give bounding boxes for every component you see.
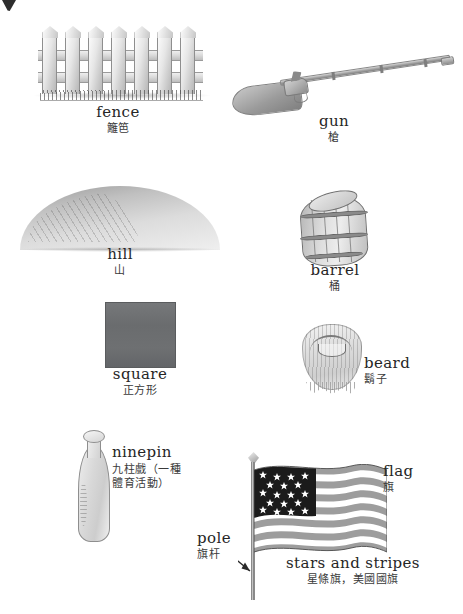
beard-illustration [298, 318, 366, 394]
gun-trigger-guard [293, 93, 308, 104]
label-flag-zh: 旗 [383, 482, 414, 495]
label-flag: flag 旗 [383, 463, 414, 495]
square-body [105, 302, 176, 368]
label-barrel: barrel 桶 [311, 262, 360, 294]
page-corner-artifact [2, 0, 16, 11]
gun-muzzle [440, 56, 454, 66]
label-barrel-en: barrel [311, 262, 360, 280]
label-stars-and-stripes-zh: 星條旗，美國國旗 [286, 574, 420, 587]
label-stars-and-stripes-en: stars and stripes [286, 555, 420, 573]
square-illustration [105, 302, 176, 368]
label-pole: pole 旗杆 [197, 530, 231, 562]
flag-cloth [254, 464, 387, 565]
fence-picket [42, 36, 57, 94]
label-stars-and-stripes: stars and stripes 星條旗，美國國旗 [286, 555, 420, 587]
label-ninepin-en: ninepin [112, 444, 181, 462]
picket-point-icon [65, 25, 82, 38]
label-pole-en: pole [197, 530, 231, 548]
picket-point-icon [134, 25, 151, 38]
label-gun-en: gun [319, 113, 349, 131]
picket-point-icon [42, 25, 59, 38]
label-pole-zh: 旗杆 [197, 549, 231, 562]
label-square-en: square [113, 366, 167, 384]
label-hill-zh: 山 [107, 265, 133, 278]
picket-point-icon [180, 25, 197, 38]
picket-point-icon [111, 25, 128, 38]
ninepin-shading [80, 482, 87, 526]
label-hill: hill 山 [107, 246, 133, 278]
label-beard-zh: 鬍子 [364, 374, 410, 387]
beard-lower-fringe [306, 382, 358, 394]
picket-point-icon [157, 25, 174, 38]
gun-illustration [228, 58, 454, 120]
beard-mouth [318, 344, 346, 357]
label-barrel-zh: 桶 [311, 281, 360, 294]
illustrated-vocabulary-page: fence 籬笆 gun 槍 hill 山 b [0, 0, 463, 614]
label-beard-en: beard [364, 355, 410, 373]
label-gun: gun 槍 [319, 113, 349, 145]
label-ninepin-zh: 九柱戲（一種 體育活動） [112, 463, 181, 492]
fence-picket [65, 36, 80, 94]
label-ninepin: ninepin 九柱戲（一種 體育活動） [112, 444, 181, 491]
fence-illustration [38, 26, 203, 101]
ninepin-illustration [76, 430, 112, 542]
fence-picket [134, 36, 149, 94]
label-hill-en: hill [107, 246, 133, 264]
label-gun-zh: 槍 [319, 132, 349, 145]
label-fence-en: fence [96, 104, 139, 122]
fence-picket [157, 36, 172, 94]
label-square-zh: 正方形 [113, 385, 167, 398]
fence-grass [40, 90, 203, 101]
fence-picket [88, 36, 103, 94]
fence-picket [180, 36, 195, 94]
label-fence-zh: 籬笆 [96, 123, 139, 136]
label-fence: fence 籬笆 [96, 104, 139, 136]
picket-point-icon [88, 25, 105, 38]
ninepin-head [83, 430, 105, 443]
label-beard: beard 鬍子 [364, 355, 410, 387]
fence-picket [111, 36, 126, 94]
hill-illustration [22, 182, 218, 250]
label-flag-en: flag [383, 463, 414, 481]
label-square: square 正方形 [113, 366, 167, 398]
barrel-illustration [299, 190, 371, 268]
beard-hair-texture [302, 324, 362, 390]
